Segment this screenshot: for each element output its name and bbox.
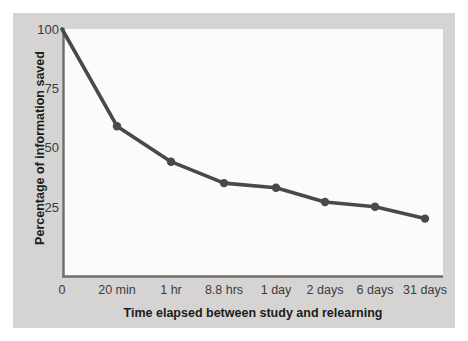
data-point (113, 122, 121, 130)
forgetting-curve-figure: 100 75 50 25 Percentage of information s… (0, 0, 468, 341)
x-tick-label: 1 day (261, 283, 292, 297)
data-point (220, 179, 228, 187)
x-tick-label: 2 days (307, 283, 344, 297)
x-tick-label: 8.8 hrs (205, 283, 243, 297)
x-tick-label: 6 days (357, 283, 394, 297)
y-axis-title: Percentage of information saved (33, 28, 47, 268)
x-axis-tick-labels: 0 20 min 1 hr 8.8 hrs 1 day 2 days 6 day… (0, 283, 468, 303)
data-point (371, 203, 379, 211)
data-point (272, 184, 280, 192)
x-tick-label: 31 days (403, 283, 447, 297)
x-tick-label: 20 min (98, 283, 136, 297)
x-axis-title: Time elapsed between study and relearnin… (63, 306, 443, 320)
x-tick-label: 1 hr (160, 283, 182, 297)
data-point (321, 198, 329, 206)
data-point (167, 158, 175, 166)
x-tick-label: 0 (59, 283, 66, 297)
data-point (421, 214, 429, 222)
